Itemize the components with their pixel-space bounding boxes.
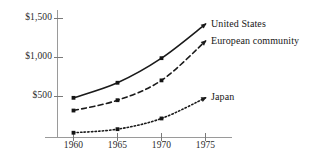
y-axis-label-1000: $1,000 — [4, 51, 52, 61]
x-axis-label-1960: 1960 — [51, 140, 96, 150]
data-point-european-community-1970 — [160, 78, 164, 82]
y-axis-label-500: $500 — [4, 90, 52, 100]
data-point-japan-1965 — [116, 127, 120, 131]
data-point-united-states-1965 — [116, 81, 120, 85]
chart-container: $1,500 $1,000 $500 1960 1965 1970 1975 U… — [0, 0, 310, 154]
series-line-european-community — [74, 41, 206, 110]
series-lines — [74, 24, 206, 133]
series-label-european-community: European community — [211, 35, 299, 46]
series-line-united-states — [74, 24, 206, 98]
data-point-japan-1960 — [72, 131, 76, 135]
x-axis-label-1965: 1965 — [95, 140, 140, 150]
x-axis-label-1975: 1975 — [183, 140, 228, 150]
data-point-european-community-1960 — [72, 109, 76, 113]
data-point-japan-1970 — [160, 117, 164, 121]
series-arrowheads — [201, 23, 207, 102]
data-point-european-community-1965 — [116, 98, 120, 102]
data-point-united-states-1970 — [160, 56, 164, 60]
series-label-united-states: United States — [211, 18, 266, 29]
data-point-united-states-1960 — [72, 96, 76, 100]
x-axis-label-1970: 1970 — [139, 140, 184, 150]
series-label-japan: Japan — [211, 91, 234, 102]
y-axis-ticks — [54, 19, 63, 97]
y-axis-label-1500: $1,500 — [4, 12, 52, 22]
series-line-japan — [74, 98, 206, 133]
